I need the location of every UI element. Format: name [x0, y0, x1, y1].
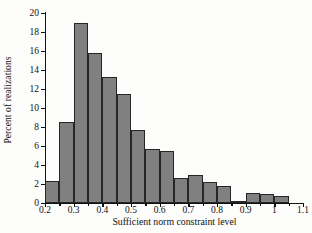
- x-axis-tick-label: 0.7: [182, 205, 194, 215]
- y-axis-tick: [41, 51, 45, 52]
- histogram-bar: [160, 151, 174, 203]
- histogram-bar: [231, 201, 245, 203]
- y-axis-tick-label: 20: [30, 8, 40, 18]
- y-axis-tick: [41, 13, 45, 14]
- histogram-bar: [74, 23, 88, 204]
- histogram-bar: [188, 175, 202, 203]
- y-axis-tick: [41, 89, 45, 90]
- y-axis-tick: [41, 165, 45, 166]
- y-axis-tick-label: 12: [30, 84, 40, 94]
- x-axis-tick-label: 0.5: [125, 205, 137, 215]
- histogram-bar: [88, 53, 102, 203]
- x-axis-tick-label: 1.1: [297, 205, 309, 215]
- y-axis-tick: [41, 70, 45, 71]
- histogram-bar: [102, 77, 116, 203]
- x-axis-tick-label: 0.9: [240, 205, 252, 215]
- histogram-bar: [203, 182, 217, 203]
- histogram-bar: [260, 194, 274, 203]
- x-axis-tick-label: 0.6: [154, 205, 166, 215]
- y-axis-tick: [41, 32, 45, 33]
- plot-area: [45, 13, 303, 203]
- x-axis-label: Sufficient norm constraint level: [45, 216, 304, 227]
- histogram-bar: [59, 122, 73, 203]
- x-axis-tick-label: 0.8: [211, 205, 223, 215]
- x-axis-tick-label: 0.2: [39, 205, 51, 215]
- y-axis-tick-label: 6: [34, 141, 39, 151]
- y-axis-tick-label: 16: [30, 46, 40, 56]
- y-axis-tick: [41, 146, 45, 147]
- histogram-bar: [274, 196, 288, 203]
- y-axis-tick-labels: 02468101214161820: [16, 0, 42, 233]
- histogram-bar: [145, 149, 159, 203]
- y-axis-label: Percent of realizations: [0, 0, 16, 200]
- histogram-bar: [117, 94, 131, 203]
- histogram-figure: Percent of realizations 0246810121416182…: [0, 0, 312, 233]
- histogram-bar: [45, 181, 59, 203]
- y-axis-tick-label: 18: [30, 27, 40, 37]
- y-axis-tick-label: 8: [34, 122, 39, 132]
- x-axis-tick-label: 0.3: [68, 205, 80, 215]
- x-axis-tick-label: 0.4: [96, 205, 108, 215]
- histogram-bar: [246, 193, 260, 203]
- y-axis-tick: [41, 127, 45, 128]
- y-axis-tick-label: 10: [30, 103, 40, 113]
- x-axis-tick-label: 1: [272, 205, 277, 215]
- y-axis-tick: [41, 108, 45, 109]
- y-axis-tick-label: 14: [30, 65, 40, 75]
- y-axis-label-text: Percent of realizations: [3, 56, 13, 143]
- histogram-bar: [131, 130, 145, 203]
- histogram-bar: [174, 178, 188, 203]
- histogram-bar: [217, 186, 231, 203]
- y-axis-tick: [41, 184, 45, 185]
- y-axis-tick-label: 2: [34, 179, 39, 189]
- y-axis-tick-label: 4: [34, 160, 39, 170]
